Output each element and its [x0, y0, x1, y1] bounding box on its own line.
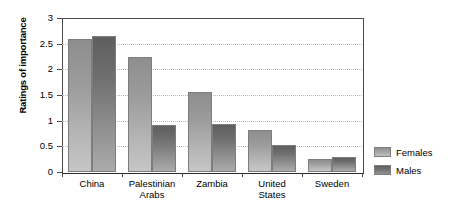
- males-swatch: [374, 165, 391, 175]
- y-axis-tick-label: 1: [13, 116, 53, 126]
- y-axis-tick-label: 0: [13, 167, 53, 177]
- bar-females-china: [68, 39, 92, 172]
- x-axis-tick-label: Sweden: [302, 178, 362, 189]
- x-axis-tick: [122, 173, 123, 177]
- legend-item-label: Males: [396, 165, 421, 176]
- x-axis-tick: [362, 173, 363, 177]
- legend-item-label: Females: [396, 147, 432, 158]
- x-axis-tick: [62, 173, 63, 177]
- y-axis-tick-label: 1.5: [13, 90, 53, 100]
- bar-females-zambia: [188, 92, 212, 172]
- bar-males-palestinian-arabs: [152, 125, 176, 172]
- x-axis-tick-label: Zambia: [182, 178, 242, 189]
- x-axis-tick: [242, 173, 243, 177]
- y-axis-tick-label: 0.5: [13, 141, 53, 151]
- x-axis-tick-label: United States: [242, 178, 302, 200]
- bar-males-united-states: [272, 145, 296, 172]
- bar-males-china: [92, 36, 116, 172]
- bar-females-united-states: [248, 130, 272, 172]
- legend: FemalesMales: [374, 144, 432, 180]
- bar-chart: Ratings of importance 00.511.522.53 Chin…: [0, 0, 452, 210]
- x-axis-tick: [182, 173, 183, 177]
- x-axis-tick-label: Palestinian Arabs: [122, 178, 182, 200]
- bar-females-sweden: [308, 159, 332, 172]
- legend-item-females: Females: [374, 144, 432, 160]
- x-axis-tick-label: China: [62, 178, 122, 189]
- legend-item-males: Males: [374, 162, 432, 178]
- bars-layer: [62, 18, 362, 172]
- bar-males-sweden: [332, 157, 356, 172]
- x-axis-tick: [302, 173, 303, 177]
- y-axis-tick-label: 2.5: [13, 39, 53, 49]
- bar-females-palestinian-arabs: [128, 57, 152, 173]
- y-axis-tick-label: 2: [13, 64, 53, 74]
- y-axis-tick-label: 3: [13, 13, 53, 23]
- bar-males-zambia: [212, 124, 236, 172]
- females-swatch: [374, 147, 391, 157]
